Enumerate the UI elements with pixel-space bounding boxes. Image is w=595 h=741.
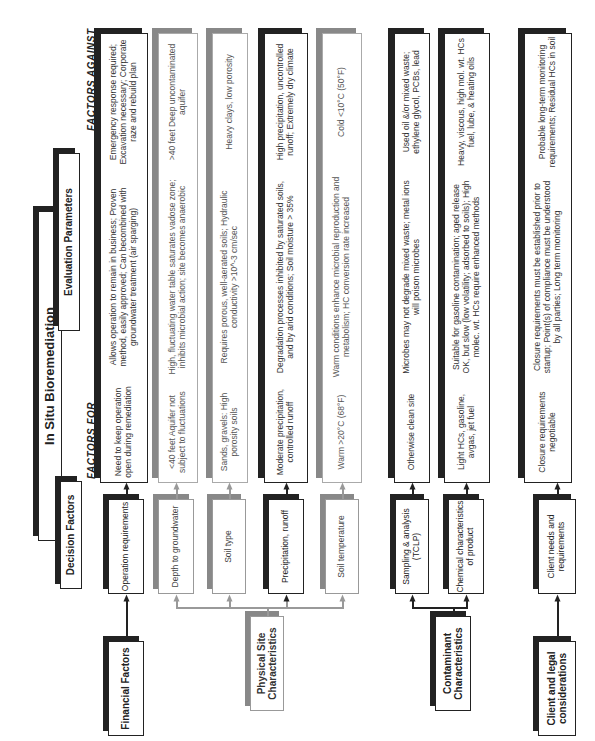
factor-against-text: Used oil &/or mixed waste; ethylene glyc… xyxy=(395,32,429,172)
evaluation-text: Allows operation to remain in business; … xyxy=(101,172,147,382)
factor-chemical-characteristics: Chemical characteristics of product xyxy=(448,499,484,594)
factor-against-text: Heavy clays, low porosity xyxy=(213,32,247,172)
factor-for-text: Need to keep operation open during remed… xyxy=(101,382,147,482)
row-operation-requirements: Need to keep operation open during remed… xyxy=(100,33,148,483)
category-financial-factors: Financial Factors xyxy=(108,641,144,736)
factor-soil-temperature: Soil temperature xyxy=(325,499,359,594)
category-client-legal: Client and legal considerations xyxy=(538,641,576,736)
diagram-stage: In Situ Bioremediation Decision Factors … xyxy=(0,0,595,741)
factor-against-text: Emergency response required; Excavation … xyxy=(101,32,147,172)
factor-for-text: Sands, gravels: High porosity soils xyxy=(213,382,247,482)
row-client-needs: Closure requirements negotiable Closure … xyxy=(524,33,572,483)
factor-for-text: <40 feet Aquifer not subject to fluctuat… xyxy=(159,382,197,482)
row-depth-to-groundwater: <40 feet Aquifer not subject to fluctuat… xyxy=(158,33,198,483)
factor-against-text: Heavy, viscous, high mol. wt. HCs fuel, … xyxy=(445,32,489,172)
evaluation-text: Degradation processes inhibited by satur… xyxy=(265,172,307,382)
factor-for-text: Light HCs, gasoline, avgas, jet fuel xyxy=(445,382,489,482)
row-soil-type: Sands, gravels: High porosity soils Requ… xyxy=(212,33,248,483)
row-precipitation: Moderate precipitation, controlled runof… xyxy=(264,33,308,483)
factor-soil-type: Soil type xyxy=(212,499,246,594)
row-chemical-characteristics: Light HCs, gasoline, avgas, jet fuel Sui… xyxy=(444,33,490,483)
header-evaluation-parameters: Evaluation Parameters xyxy=(58,153,80,331)
factor-against-text: >40 feet Deep uncontaminated aquifer xyxy=(159,32,197,172)
header-factors-against: FACTORS AGAINST xyxy=(86,28,97,131)
factor-for-text: Warm >20°C (68°F) xyxy=(323,382,361,482)
evaluation-text: Requires porous, well-aerated soils; Hyd… xyxy=(213,172,247,382)
factor-operation-requirements: Operation requirements xyxy=(108,499,144,594)
evaluation-text: Warm conditions enhance microbial reprod… xyxy=(323,172,361,382)
factor-for-text: Closure requirements negotiable xyxy=(525,382,571,482)
evaluation-text: Suitable for gasoline contamination; age… xyxy=(445,172,489,382)
factor-for-text: Moderate precipitation, controlled runof… xyxy=(265,382,307,482)
row-sampling-analysis: Otherwise clean site Microbes may not de… xyxy=(394,33,430,483)
evaluation-text: Closure requirements must be established… xyxy=(525,172,571,382)
header-factors-for: FACTORS FOR xyxy=(86,402,97,479)
evaluation-text: High, fluctuating water table saturates … xyxy=(159,172,197,382)
factor-for-text: Otherwise clean site xyxy=(395,382,429,482)
factor-precipitation: Precipitation, runoff xyxy=(268,499,304,594)
factor-against-text: High precipitation, uncontrolled runoff;… xyxy=(265,32,307,172)
row-soil-temperature: Warm >20°C (68°F) Warm conditions enhanc… xyxy=(322,33,362,483)
factor-against-text: Cold <10°C (50°F) xyxy=(323,32,361,172)
factor-client-needs: Client needs and requirements xyxy=(538,499,576,594)
factor-depth-to-groundwater: Depth to groundwater xyxy=(158,499,194,594)
category-contaminant: Contaminant Characteristics xyxy=(435,616,471,711)
header-decision-factors: Decision Factors xyxy=(60,481,82,589)
factor-sampling-analysis: Sampling & analysis (TCLP) xyxy=(395,499,429,594)
factor-against-text: Probable long-term monitoring requiremen… xyxy=(525,32,571,172)
evaluation-text: Microbes may not degrade mixed waste; me… xyxy=(395,172,429,382)
category-physical-site: Physical Site Characteristics xyxy=(250,616,284,711)
